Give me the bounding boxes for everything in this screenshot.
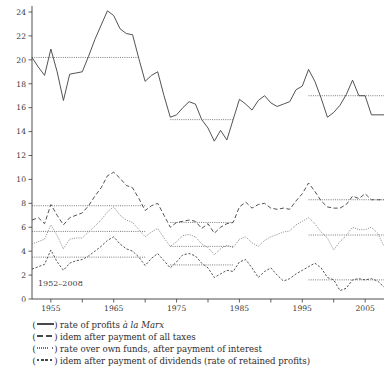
legend-label-2: rate over own funds, after payment of in… (60, 343, 262, 355)
x-tick-label: 1985 (230, 304, 249, 313)
legend-item: () rate over own funds, after payment of… (30, 343, 389, 355)
y-tick-label: 8 (21, 199, 26, 208)
legend-item: () idem after payment of dividends (rate… (30, 355, 389, 367)
legend-key-dashdot: () (30, 356, 60, 366)
legend-paren-open: ( (32, 320, 36, 330)
y-tick-label: 16 (16, 103, 26, 112)
legend-paren-close: ) (54, 320, 58, 330)
profit-rate-line-chart: 024681012141618202224 195519651975198519… (0, 0, 389, 320)
legend-paren-close: ) (54, 356, 58, 366)
legend-paren-close: ) (54, 332, 58, 342)
period-annotation: 1952–2008 (38, 279, 83, 288)
chart-legend: () rate of profits à la Marx () idem aft… (30, 319, 389, 367)
y-tick-label: 2 (21, 271, 26, 280)
x-tick-label: 2005 (355, 304, 374, 313)
y-tick-label: 4 (21, 247, 26, 256)
legend-key-dashed: () (30, 332, 60, 342)
series-line-2 (32, 207, 384, 255)
legend-label-0-pre: rate of profits (60, 320, 123, 330)
line-sample-dashdot-icon (37, 359, 54, 360)
figure-root: 024681012141618202224 195519651975198519… (0, 0, 389, 384)
legend-label-0: rate of profits à la Marx (60, 319, 164, 331)
legend-key-solid: () (30, 320, 60, 330)
legend-paren-open: ( (32, 356, 36, 366)
y-tick-label: 20 (16, 56, 26, 65)
y-tick-label: 24 (16, 8, 26, 17)
x-tick-label: 1975 (167, 304, 186, 313)
legend-label-3: idem after payment of dividends (rate of… (60, 355, 310, 367)
y-tick-label: 14 (16, 127, 26, 136)
legend-paren-open: ( (32, 344, 36, 354)
legend-paren-close: ) (54, 344, 58, 354)
legend-label-0-italic: à la Marx (123, 320, 164, 330)
average-level-lines (32, 57, 384, 279)
x-tick-label: 1955 (41, 304, 60, 313)
series-line-0 (32, 11, 384, 141)
x-axis-tick-labels: 195519651975198519952005 (41, 304, 375, 313)
y-tick-label: 0 (21, 295, 26, 304)
line-sample-solid-icon (37, 323, 54, 324)
legend-paren-open: ( (32, 332, 36, 342)
y-tick-label: 10 (16, 175, 26, 184)
y-tick-label: 18 (16, 80, 26, 89)
line-sample-dashed-icon (37, 335, 54, 336)
y-axis-tick-labels: 024681012141618202224 (16, 8, 26, 304)
data-series-lines (32, 11, 384, 291)
x-tick-label: 1995 (293, 304, 312, 313)
x-tick-label: 1965 (104, 304, 123, 313)
chart-plot-area: 024681012141618202224 195519651975198519… (0, 0, 389, 320)
legend-label-1: idem after payment of all taxes (60, 331, 196, 343)
legend-item: () idem after payment of all taxes (30, 331, 389, 343)
legend-item: () rate of profits à la Marx (30, 319, 389, 331)
y-tick-label: 6 (21, 223, 26, 232)
legend-key-dotted: () (30, 344, 60, 354)
line-sample-dotted-icon (37, 347, 54, 348)
series-line-1 (32, 172, 384, 233)
chart-axes (29, 6, 385, 303)
y-tick-label: 12 (16, 151, 26, 160)
y-tick-label: 22 (16, 32, 26, 41)
